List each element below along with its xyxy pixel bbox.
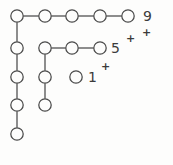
node-circle-r5c1[interactable] [11,128,23,140]
label-5: 5 [111,41,120,55]
node-circle-r3c1[interactable] [11,71,23,83]
node-circle-r2c4[interactable] [94,42,106,54]
diagram-canvas: 9+5+1+ [0,0,173,165]
node-circle-r1c4[interactable] [94,10,106,22]
node-link-diagram [0,0,173,165]
label-9: 9 [143,9,152,23]
label-9-charge: + [142,27,151,38]
node-circle-r3c2[interactable] [39,71,51,83]
nodes-layer [11,10,134,140]
node-circle-r1c2[interactable] [39,10,51,22]
label-1-charge: + [101,61,110,72]
node-circle-r3c3[interactable] [70,71,82,83]
node-circle-r4c2[interactable] [39,99,51,111]
label-5-charge: + [126,33,135,44]
node-circle-r1c3[interactable] [66,10,78,22]
node-circle-r2c2[interactable] [39,42,51,54]
node-circle-r1c5[interactable] [122,10,134,22]
label-1: 1 [88,70,97,84]
node-circle-r2c1[interactable] [11,42,23,54]
node-circle-r4c1[interactable] [11,99,23,111]
node-circle-r2c3[interactable] [66,42,78,54]
node-circle-r1c1[interactable] [11,10,23,22]
